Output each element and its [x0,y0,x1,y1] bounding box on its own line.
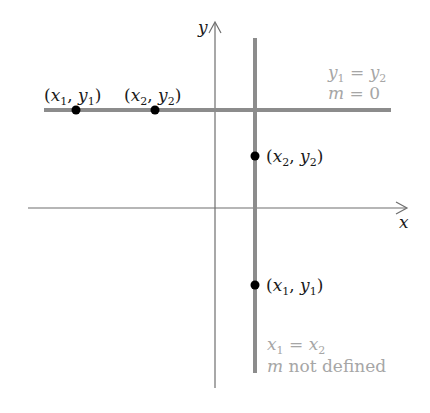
slope-diagram: y x (x1, y1) (x2, y2) y1 = y2 m = 0 (x2,… [0,0,430,413]
label-v-x1y1: (x1, y1) [266,275,323,298]
annotation-v-slope: m not defined [267,356,386,376]
point-h-x1y1 [72,106,81,115]
point-h-x2y2 [151,106,160,115]
point-v-x1y1 [251,281,260,290]
point-v-x2y2 [251,152,260,161]
annotation-h-equation: y1 = y2 [327,62,386,85]
label-h-x2y2: (x2, y2) [124,85,181,108]
label-v-x2y2: (x2, y2) [266,146,323,169]
annotation-v-equation: x1 = x2 [267,334,325,357]
y-axis-label: y [197,17,208,37]
label-h-x1y1: (x1, y1) [44,85,101,108]
annotation-h-slope: m = 0 [328,83,380,103]
x-axis-label: x [399,212,409,232]
